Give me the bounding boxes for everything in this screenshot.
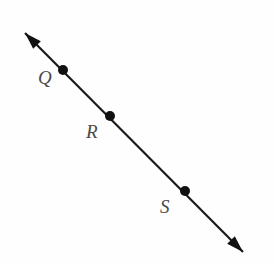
figure-background: [0, 0, 274, 266]
point-label-r: R: [86, 122, 98, 141]
point-label-q: Q: [38, 68, 52, 87]
line-diagram-svg: [0, 0, 274, 266]
point-dot-r: [105, 111, 115, 121]
point-label-s: S: [160, 197, 170, 216]
point-dot-q: [58, 65, 68, 75]
point-dot-s: [180, 186, 190, 196]
geometry-figure-canvas: Q R S: [0, 0, 274, 266]
